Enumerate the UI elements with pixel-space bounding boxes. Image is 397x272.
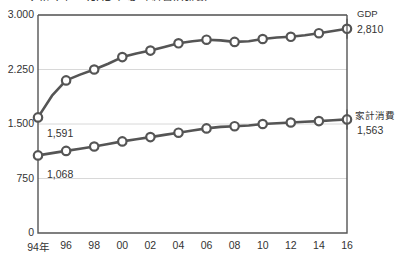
data-point-marker [62,76,70,84]
data-point-marker [202,124,210,132]
y-axis-tick-label: 0 [0,226,34,238]
data-point-marker [259,35,267,43]
data-point-marker [90,65,98,73]
data-point-marker [90,142,98,150]
data-point-marker [202,36,210,44]
series-label-gdp: GDP [357,8,378,19]
data-point-marker [62,147,70,155]
data-point-marker [259,120,267,128]
data-point-marker [34,151,42,159]
series-end-value-household-consumption: 1,563 [357,124,383,136]
data-point-marker [34,113,42,121]
y-axis-tick-label: 750 [0,172,34,184]
data-point-marker [287,118,295,126]
series-end-value-gdp: 2,810 [357,23,383,35]
data-point-marker [315,117,323,125]
y-axis-tick-label: 3.000 [0,8,34,20]
data-point-marker [287,33,295,41]
series-label-household-consumption: 家計消費 [355,108,395,122]
x-axis-tick-label: 16 [329,239,365,251]
data-point-marker [174,129,182,137]
series-line-gdp [38,29,347,118]
data-point-marker [118,53,126,61]
line-chart: ノルウェー GDP と家計消費の推移 07501.5002.2503.000 9… [0,0,397,272]
y-axis-tick-label: 1.500 [0,117,34,129]
series-start-value-household-consumption: 1,068 [47,168,73,180]
y-axis-tick-label: 2.250 [0,63,34,75]
data-point-marker [146,46,154,54]
data-point-marker [174,39,182,47]
series-line-household-consumption [38,119,347,155]
data-point-marker [230,122,238,130]
data-point-marker [146,133,154,141]
data-point-marker [230,38,238,46]
data-point-marker [315,29,323,37]
data-point-marker [118,137,126,145]
series-start-value-gdp: 1,591 [47,127,73,139]
